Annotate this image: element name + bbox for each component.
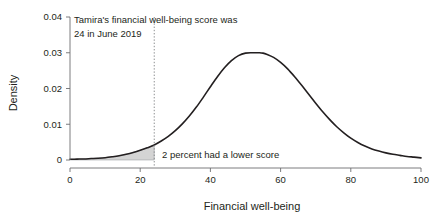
y-tick-label: 0.01: [44, 119, 63, 130]
y-tick-label: 0.03: [44, 47, 63, 58]
density-curve: [70, 53, 421, 160]
x-tick-label: 80: [346, 174, 357, 185]
annotation-lower-score: 2 percent had a lower score: [162, 149, 279, 160]
x-axis: 020406080100 Financial well-being: [67, 168, 429, 212]
chart-canvas: 00.010.020.030.04 Density 020406080100 F…: [0, 0, 445, 216]
x-tick-label: 40: [205, 174, 216, 185]
y-axis: 00.010.020.030.04 Density: [7, 11, 70, 165]
x-axis-title: Financial well-being: [204, 200, 301, 212]
annotation-tamira-line-1: Tamira's financial well-being score was: [74, 14, 238, 25]
x-axis-ticks: 020406080100: [67, 168, 429, 185]
annotation-tamira-score: Tamira's financial well-being score was …: [74, 14, 238, 39]
y-axis-ticks: 00.010.020.030.04: [44, 11, 71, 165]
x-tick-label: 20: [135, 174, 146, 185]
x-tick-label: 100: [413, 174, 429, 185]
y-axis-title: Density: [7, 74, 19, 111]
lower-tail-shading: [70, 145, 155, 160]
annotation-tamira-line-2: 24 in June 2019: [74, 28, 142, 39]
y-tick-label: 0.04: [44, 11, 63, 22]
financial-wellbeing-density-chart: 00.010.020.030.04 Density 020406080100 F…: [0, 0, 445, 216]
x-tick-label: 60: [275, 174, 286, 185]
y-tick-label: 0.02: [44, 83, 63, 94]
x-tick-label: 0: [67, 174, 72, 185]
y-tick-label: 0: [57, 154, 62, 165]
